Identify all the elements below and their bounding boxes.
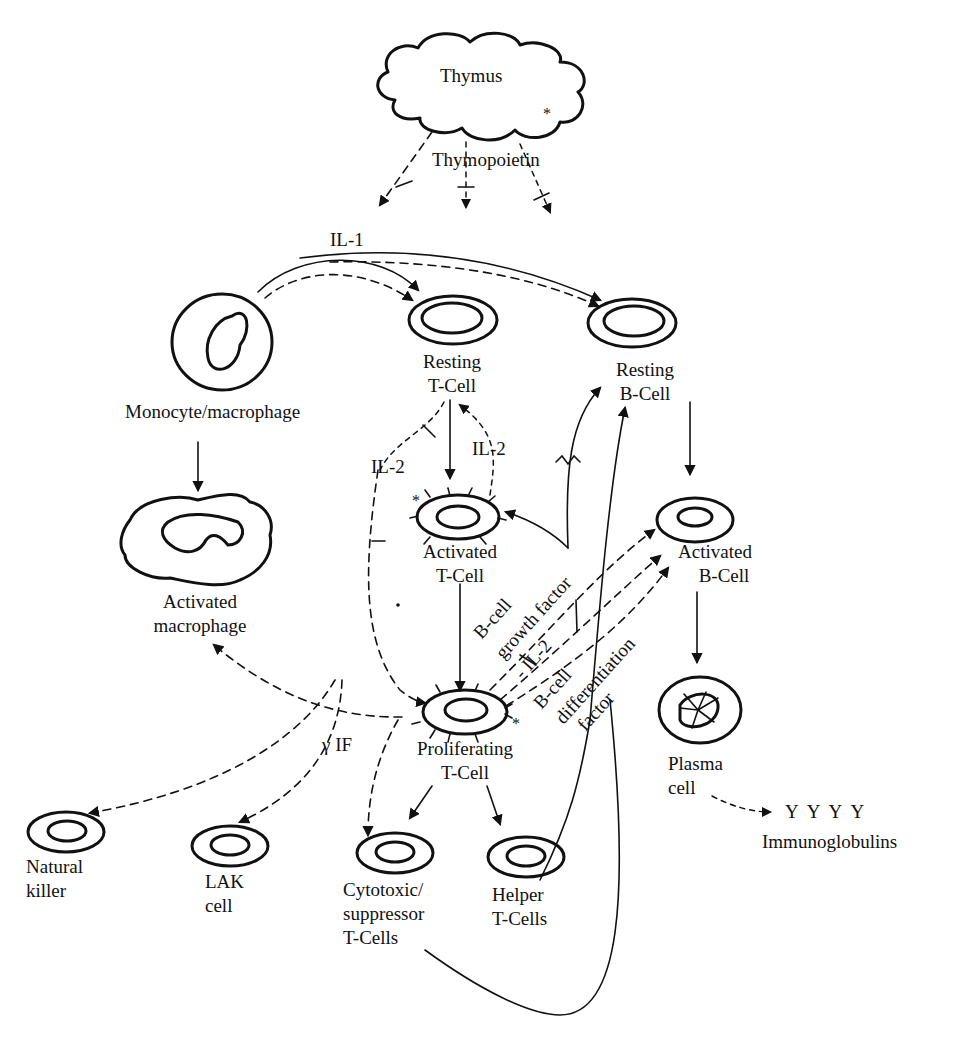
plasma-cell <box>659 677 741 743</box>
immune-diagram: Thymus * Thymopoietin IL-1 Resting T-Cel… <box>0 0 962 1040</box>
activated-t-marker: * <box>412 489 420 513</box>
activated-b-cell <box>657 498 733 542</box>
helper-label: Helper T-Cells <box>492 883 547 931</box>
lak-cell <box>192 826 268 866</box>
thymus-marker: * <box>543 102 551 126</box>
arrow-to-cytotoxic-dashed <box>368 720 398 835</box>
thymopoietin-arrow-left <box>380 132 432 205</box>
lak-label: LAK cell <box>205 870 244 918</box>
arrow-to-resting-b-wavy <box>567 388 600 548</box>
proliferating-t-marker: * <box>512 712 520 736</box>
cytotoxic-label: Cytotoxic/ suppressor T-Cells <box>343 878 424 950</box>
il2-right-label: IL-2 <box>472 437 506 461</box>
natural-killer-label: Natural killer <box>26 855 83 903</box>
immunoglobulins-label: Immunoglobulins <box>762 830 897 854</box>
arrow-prolif-to-helper <box>487 786 500 824</box>
il2-left-label: IL-2 <box>371 455 405 479</box>
activated-b-label: Activated B-Cell <box>665 540 765 588</box>
helper-cell <box>488 837 564 877</box>
gamma-if-arrow <box>214 645 402 717</box>
monocyte-cell <box>172 294 272 390</box>
arrow-to-nk <box>90 680 335 813</box>
gamma-if-label: γ IF <box>322 733 352 757</box>
arrow-prolif-to-cytotoxic <box>410 786 432 818</box>
activated-macrophage-label: Activated macrophage <box>135 590 265 638</box>
natural-killer-cell <box>28 812 104 852</box>
proliferating-t-cell <box>423 690 507 734</box>
immunoglobulin-symbols: Y Y Y Y <box>785 800 864 824</box>
arrow-to-act-t <box>506 512 568 548</box>
activated-macrophage-cell <box>121 495 271 585</box>
il1-dashed-to-t <box>265 275 412 300</box>
cytotoxic-cell <box>357 833 433 873</box>
thymopoietin-label: Thymopoietin <box>432 148 540 172</box>
monocyte-label: Monocyte/macrophage <box>125 400 300 424</box>
proliferating-t-label: Proliferating T-Cell <box>405 737 525 785</box>
activated-t-cell <box>417 495 499 539</box>
thymus-label: Thymus <box>440 64 502 88</box>
il1-label: IL-1 <box>330 228 364 252</box>
resting-t-label: Resting T-Cell <box>392 350 512 398</box>
resting-b-label: Resting B-Cell <box>590 358 700 406</box>
activated-t-label: Activated T-Cell <box>405 540 515 588</box>
plasma-label: Plasma cell <box>668 752 723 800</box>
